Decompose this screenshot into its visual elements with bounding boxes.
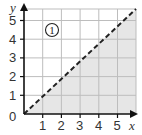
y-tick-2: 2 [9, 69, 16, 84]
y-tick-5: 5 [9, 13, 16, 28]
x-tick-3: 3 [76, 118, 83, 133]
inequality-graph: 0 1 2 3 4 5 x 1 2 3 4 5 y 1 [0, 0, 142, 135]
y-tick-1: 1 [9, 88, 16, 103]
y-axis-arrow [20, 3, 28, 11]
x-tick-5: 5 [114, 118, 121, 133]
origin-label: 0 [9, 109, 16, 124]
x-axis-label: x [128, 118, 135, 133]
x-tick-4: 4 [95, 118, 102, 133]
region-label: 1 [49, 24, 55, 36]
x-tick-1: 1 [39, 118, 46, 133]
y-tick-3: 3 [9, 50, 16, 65]
y-axis-label: y [8, 0, 16, 15]
y-tick-4: 4 [9, 32, 16, 47]
x-tick-2: 2 [58, 118, 65, 133]
